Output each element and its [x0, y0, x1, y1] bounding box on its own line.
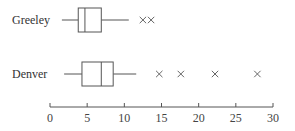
- box-greeley: [62, 8, 154, 32]
- outlier-x-icon: [148, 17, 154, 23]
- outlier-x-icon: [178, 71, 184, 77]
- x-axis: 051015202530: [47, 103, 279, 125]
- iqr-box: [82, 62, 113, 86]
- outlier-x-icon: [140, 17, 146, 23]
- category-label-greeley: Greeley: [12, 13, 50, 27]
- outlier-x-icon: [212, 71, 218, 77]
- tick-label: 0: [47, 111, 53, 125]
- category-label-denver: Denver: [12, 67, 47, 81]
- tick-label: 30: [267, 111, 279, 125]
- boxplot-chart: Greeley Denver 051015202530: [0, 0, 295, 131]
- tick-label: 5: [84, 111, 90, 125]
- plot-area: [62, 8, 261, 86]
- tick-label: 10: [118, 111, 130, 125]
- iqr-box: [78, 8, 101, 32]
- outlier-x-icon: [254, 71, 260, 77]
- tick-label: 20: [193, 111, 205, 125]
- box-denver: [64, 62, 260, 86]
- tick-label: 25: [230, 111, 242, 125]
- tick-label: 15: [156, 111, 168, 125]
- outlier-x-icon: [156, 71, 162, 77]
